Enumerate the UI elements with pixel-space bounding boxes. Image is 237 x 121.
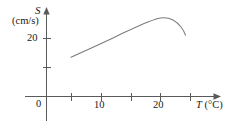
x-axis-label: T (°C) xyxy=(196,100,223,111)
origin-label: 0 xyxy=(36,99,41,110)
solubility-curve xyxy=(71,18,186,57)
x-axis-group xyxy=(25,93,221,101)
x-tick-label-10: 10 xyxy=(94,100,105,111)
graph-figure: S (cm/s) 20 0 10 20 T (°C) xyxy=(0,0,237,121)
x-tick-label-20: 20 xyxy=(153,100,164,111)
y-tick-label-20: 20 xyxy=(27,33,38,44)
y-axis-arrow-icon xyxy=(43,7,49,15)
y-axis-group xyxy=(43,7,51,121)
y-axis-units-label: (cm/s) xyxy=(12,16,39,27)
x-axis-units-label: (°C) xyxy=(204,99,222,110)
